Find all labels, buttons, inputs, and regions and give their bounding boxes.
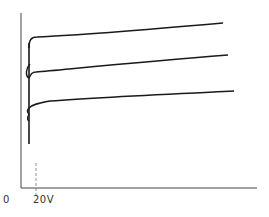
- x-tick-origin: 0: [3, 194, 10, 205]
- curve-3: [28, 91, 235, 114]
- x-tick-20v: 20V: [33, 194, 54, 205]
- curve-1: [29, 23, 223, 48]
- curve-2: [26, 55, 228, 78]
- chart-plot: [0, 0, 269, 217]
